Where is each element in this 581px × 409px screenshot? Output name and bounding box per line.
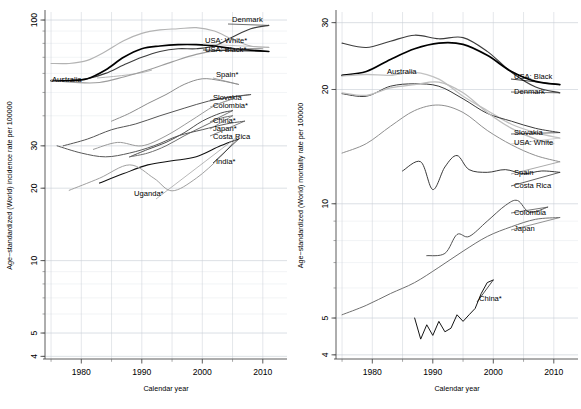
- series-label-australia: Australia: [387, 67, 417, 76]
- y-tick-label: 4: [29, 354, 39, 359]
- y-tick-label: 5: [320, 315, 330, 320]
- series-label-japan: Japan: [514, 224, 535, 233]
- y-tick-label: 20: [320, 84, 330, 94]
- mortality-chart: 451020301980199020002010Calendar yearAge…: [291, 0, 581, 409]
- axis-titles: Calendar yearAge−standardized (World) mo…: [296, 103, 480, 393]
- series-line-china: [415, 280, 494, 339]
- inline-series-labels: USA: BlackDenmarkSlovakiaUSA: WhiteSpain…: [477, 72, 560, 303]
- y-tick-label: 30: [29, 141, 39, 151]
- y-tick-label: 30: [320, 18, 330, 28]
- y-tick-label: 20: [29, 183, 39, 193]
- x-tick-label: 1990: [132, 367, 151, 377]
- series-label-china: China*: [479, 294, 502, 303]
- series-label-usa-white: USA: White: [514, 138, 553, 147]
- series-label-usa-black: USA: Black: [514, 72, 553, 81]
- x-tick-label: 2010: [253, 367, 272, 377]
- inline-series-labels: DenmarkUSA: White*USA: Black*Spain*Slova…: [134, 15, 269, 199]
- label-leader-line: [213, 78, 239, 84]
- y-axis-title: Age−standardized (World) incidence rate …: [5, 101, 14, 270]
- x-tick-label: 2010: [544, 367, 563, 377]
- series-label-uganda: Uganda*: [134, 189, 164, 198]
- series-label-colombia: Colombia*: [213, 101, 248, 110]
- series-label-slovakia: Slovakia: [514, 128, 543, 137]
- y-tick-label: 5: [29, 330, 39, 335]
- x-tick-label: 2000: [484, 367, 503, 377]
- series-label-colombia: Colombia: [514, 208, 547, 217]
- series-label-india: India*: [216, 157, 235, 166]
- series-label-usa-black: USA: Black*: [205, 45, 246, 54]
- y-tick-label: 4: [320, 352, 330, 357]
- y-tick-label: 10: [29, 256, 39, 266]
- label-leader-line: [156, 136, 239, 199]
- y-tick-label: 10: [320, 199, 330, 209]
- series-label-costa-rica: Costa Rica: [213, 132, 251, 141]
- y-tick-label: 100: [29, 13, 39, 28]
- series-line-denmark: [342, 35, 560, 93]
- y-axis-title: Age−standardized (World) mortality rate …: [296, 103, 305, 268]
- series-label-australia: Australia: [52, 75, 82, 84]
- x-tick-label: 1980: [363, 367, 382, 377]
- australia-annotation: Australia: [52, 75, 82, 84]
- x-axis-title: Calendar year: [434, 384, 480, 393]
- series-label-denmark: Denmark: [232, 15, 263, 24]
- figure-root: 451020301001980199020002010Calendar year…: [0, 0, 581, 409]
- panel-mortality: 451020301980199020002010Calendar yearAge…: [291, 0, 581, 409]
- series-label-spain: Spain*: [216, 70, 238, 79]
- incidence-chart: 451020301001980199020002010Calendar year…: [0, 0, 290, 409]
- x-axis-title: Calendar year: [143, 384, 189, 393]
- series-label-spain: Spain: [514, 168, 533, 177]
- series-label-usa-white: USA: White*: [205, 36, 247, 45]
- series-label-denmark: Denmark: [514, 87, 545, 96]
- x-tick-label: 2000: [193, 367, 212, 377]
- series-label-costa-rica: Costa Rica: [514, 181, 552, 190]
- x-tick-label: 1980: [72, 367, 91, 377]
- australia-annotation: Australia: [387, 67, 417, 76]
- panel-incidence: 451020301001980199020002010Calendar year…: [0, 0, 290, 409]
- x-tick-label: 1990: [423, 367, 442, 377]
